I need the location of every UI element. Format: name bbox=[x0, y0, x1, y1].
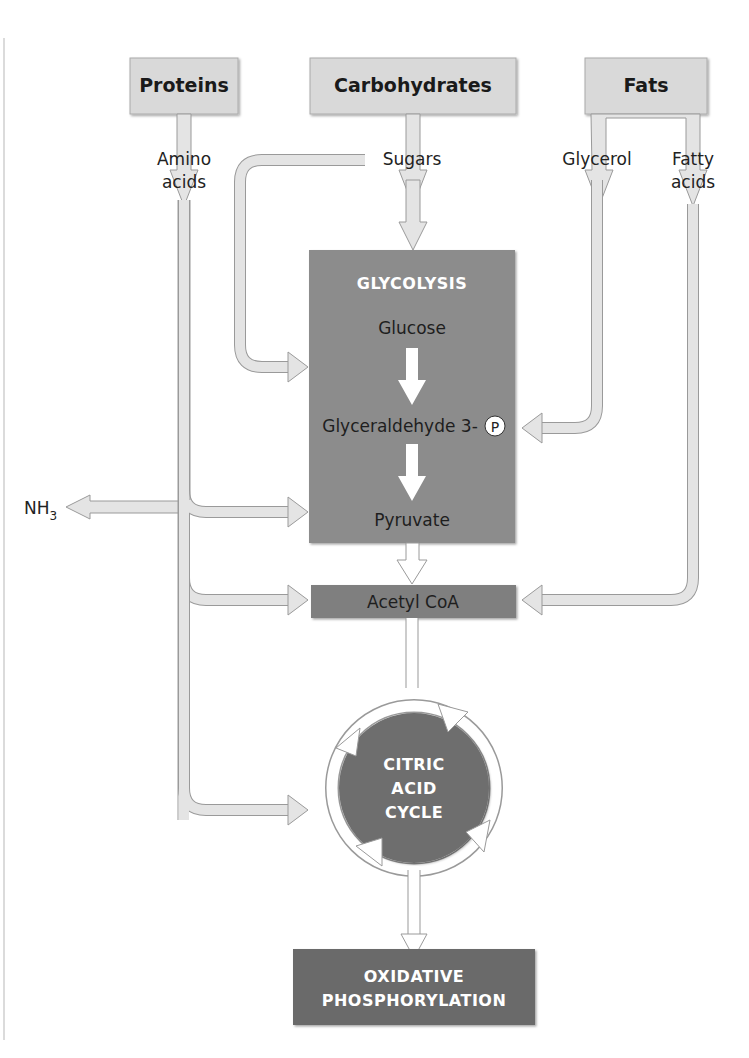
glycerol-to-g3p-arrow bbox=[522, 180, 597, 443]
proteins-label: Proteins bbox=[139, 74, 229, 96]
acetyl-coa-label: Acetyl CoA bbox=[367, 592, 459, 612]
sugars-label: Sugars bbox=[383, 149, 442, 169]
pyruvate-to-acetyl-arrow bbox=[397, 543, 427, 584]
glycolysis-title: GLYCOLYSIS bbox=[357, 274, 467, 293]
glycerol-label: Glycerol bbox=[562, 149, 632, 169]
cycle-label-3: CYCLE bbox=[385, 803, 443, 822]
g3p-label: Glyceraldehyde 3- bbox=[322, 416, 478, 436]
catabolism-diagram: Proteins Carbohydrates Fats Amino acids … bbox=[0, 0, 749, 1058]
nh3-arrow bbox=[66, 495, 178, 519]
fats-label: Fats bbox=[623, 74, 668, 96]
phosphate-icon: P bbox=[485, 416, 505, 436]
oxphos-label-2: PHOSPHORYLATION bbox=[322, 991, 507, 1010]
citric-acid-cycle: CITRIC ACID CYCLE bbox=[332, 704, 496, 870]
nh3-label: NH3 bbox=[24, 498, 57, 523]
fats-box: Fats bbox=[585, 58, 707, 114]
fatty-acids-to-acetyl-arrow bbox=[522, 204, 693, 615]
oxidative-phosphorylation-box: OXIDATIVE PHOSPHORYLATION bbox=[293, 949, 535, 1025]
carbohydrates-box: Carbohydrates bbox=[310, 58, 516, 114]
oxphos-label-1: OXIDATIVE bbox=[364, 967, 464, 986]
acetyl-coa-box: Acetyl CoA bbox=[311, 585, 516, 618]
cycle-to-oxphos-arrow bbox=[401, 866, 427, 958]
proteins-box: Proteins bbox=[130, 58, 238, 114]
cycle-label-2: ACID bbox=[391, 779, 436, 798]
glycolysis-box: GLYCOLYSIS Glucose Glyceraldehyde 3- P P… bbox=[309, 250, 515, 543]
carbohydrates-label: Carbohydrates bbox=[334, 74, 492, 96]
sugars-down-arrow bbox=[399, 180, 427, 250]
amino-to-pyruvate-arrowhead bbox=[288, 497, 308, 527]
amino-acids-label-2: acids bbox=[162, 172, 206, 192]
glucose-label: Glucose bbox=[378, 318, 446, 338]
amino-acids-label-1: Amino bbox=[157, 149, 211, 169]
pyruvate-label: Pyruvate bbox=[374, 510, 450, 530]
amino-to-acetyl-arrowhead bbox=[288, 585, 308, 615]
amino-to-cycle-arrowhead bbox=[288, 795, 308, 825]
svg-text:P: P bbox=[491, 419, 499, 435]
fatty-acids-label-2: acids bbox=[671, 172, 715, 192]
cycle-label-1: CITRIC bbox=[383, 755, 445, 774]
fatty-acids-label-1: Fatty bbox=[672, 149, 714, 169]
